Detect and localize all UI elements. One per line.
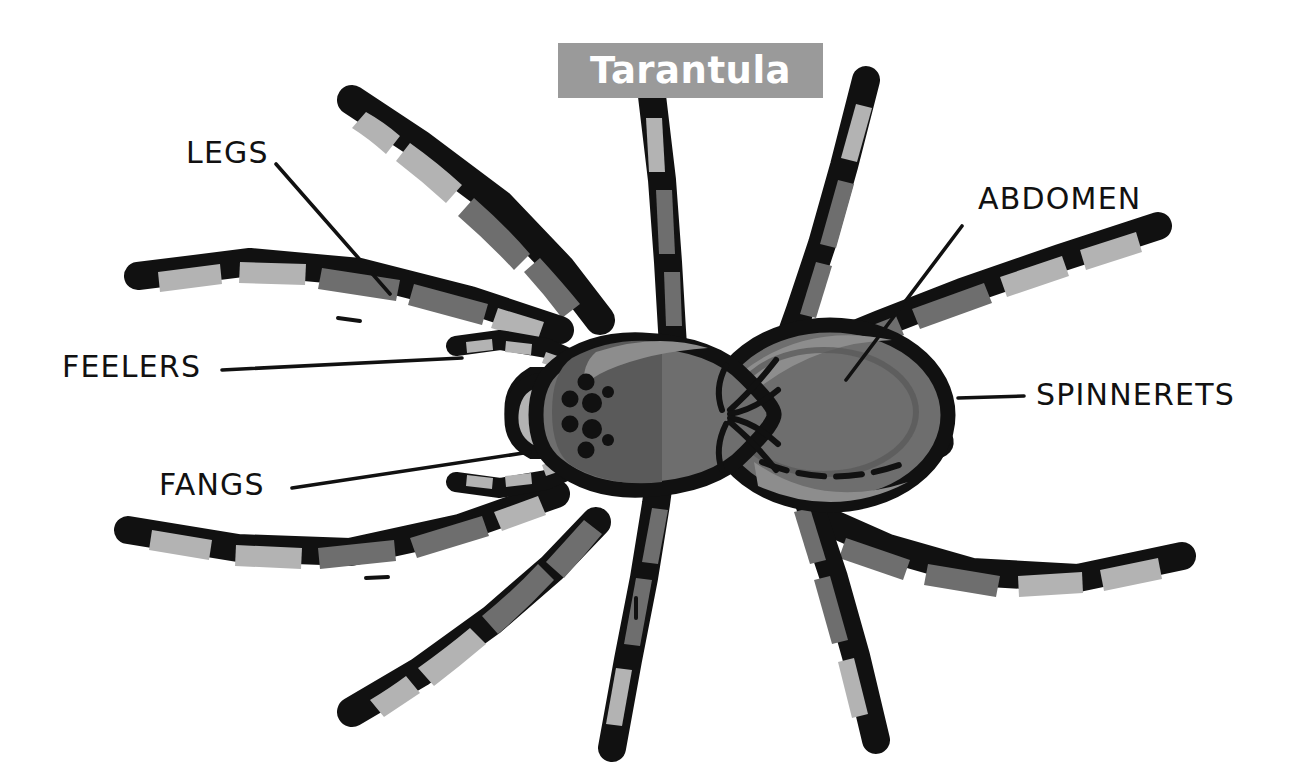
leader-line-spinnerets (958, 396, 1024, 398)
diagram-canvas: .ol { stroke:#111111; stroke-linecap:rou… (0, 0, 1299, 777)
leg-upper-left-mid (138, 262, 560, 342)
eye (602, 434, 614, 446)
cephalothorax-group (511, 340, 778, 490)
label-legs: LEGS (186, 138, 269, 168)
eye (562, 416, 579, 433)
eye (602, 386, 614, 398)
eye (582, 419, 602, 439)
title-banner: Tarantula (558, 43, 823, 98)
eye (578, 442, 595, 459)
leader-line-feelers (222, 358, 462, 370)
eye (582, 393, 602, 413)
leg-lower-right-outer (820, 518, 1182, 597)
label-abdomen: ABDOMEN (978, 184, 1142, 214)
leg-lower-left-mid (128, 494, 556, 578)
title-text: Tarantula (590, 52, 791, 89)
label-feelers: FEELERS (62, 352, 201, 382)
label-spinnerets: SPINNERETS (1036, 380, 1235, 410)
eye (578, 374, 595, 391)
label-fangs: FANGS (159, 470, 265, 500)
eye (562, 391, 579, 408)
